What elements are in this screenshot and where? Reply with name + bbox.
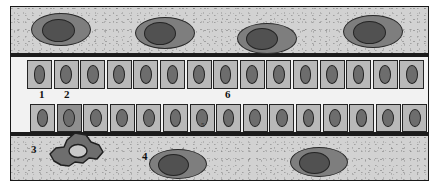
epithelial-cell xyxy=(402,104,427,132)
epithelial-cell xyxy=(323,104,348,132)
cell-nucleus xyxy=(113,65,125,84)
cell-nucleus xyxy=(329,109,341,127)
connective-oval-cell xyxy=(149,149,207,179)
cell-nucleus xyxy=(170,109,182,127)
cell-nucleus xyxy=(409,109,421,127)
callout-label-3: 3 xyxy=(31,144,37,155)
cell-nucleus xyxy=(353,21,386,44)
epithelial-cell xyxy=(187,60,212,89)
callout-label-4: 4 xyxy=(142,151,148,162)
epithelial-cell xyxy=(320,60,345,89)
callout-label-6: 6 xyxy=(225,89,231,100)
epithelial-cell xyxy=(136,104,161,132)
callout-label-5: 5 xyxy=(201,122,205,129)
cell-nucleus xyxy=(158,154,189,176)
epithelial-cell xyxy=(349,104,374,132)
cell-nucleus xyxy=(299,152,330,174)
cell-nucleus xyxy=(353,65,365,84)
callout-label-1: 1 xyxy=(39,89,45,100)
cell-nucleus xyxy=(116,109,128,127)
cell-nucleus xyxy=(63,109,75,127)
epithelial-cell xyxy=(399,60,424,89)
squamous-cell xyxy=(31,13,91,46)
cell-nucleus xyxy=(167,65,179,84)
cell-nucleus xyxy=(273,65,285,84)
irregular-amoeboid-cell xyxy=(39,132,111,170)
epithelial-cell xyxy=(216,104,241,132)
cell-nucleus xyxy=(406,65,418,84)
cell-nucleus xyxy=(90,109,102,127)
cell-nucleus xyxy=(382,109,394,127)
epithelial-cell xyxy=(83,104,108,132)
figure-frame: 1 2 3 4 5 6 xyxy=(10,6,429,181)
cell-nucleus xyxy=(356,109,368,127)
epithelial-cell xyxy=(293,60,318,89)
upper-epithelium-row xyxy=(11,60,429,89)
epithelial-cell xyxy=(346,60,371,89)
cell-nucleus xyxy=(223,109,235,127)
cell-nucleus xyxy=(379,65,391,84)
cell-nucleus xyxy=(276,109,288,127)
connective-oval-cell xyxy=(290,147,348,177)
cell-nucleus xyxy=(34,65,46,84)
cell-nucleus xyxy=(140,65,152,84)
epithelial-cell xyxy=(296,104,321,132)
epithelial-cell xyxy=(160,60,185,89)
cell-nucleus xyxy=(37,109,49,127)
squamous-cell xyxy=(237,23,297,54)
squamous-cell xyxy=(135,17,195,49)
epithelial-cell xyxy=(376,104,401,132)
cell-nucleus xyxy=(220,65,232,84)
epithelial-cell xyxy=(27,60,52,89)
cell-nucleus xyxy=(246,65,258,84)
epithelial-cell xyxy=(269,104,294,132)
epithelial-cell xyxy=(54,60,79,89)
callout-label-2: 2 xyxy=(64,89,70,100)
amoeboid-cell-shape xyxy=(39,132,111,170)
epithelial-cell xyxy=(30,104,55,132)
epithelial-cell-highlighted xyxy=(57,104,82,132)
epithelial-cell xyxy=(213,60,238,89)
epithelial-cell xyxy=(266,60,291,89)
epithelial-cell xyxy=(243,104,268,132)
epithelial-cell xyxy=(373,60,398,89)
cell-nucleus xyxy=(303,109,315,127)
cell-nucleus xyxy=(300,65,312,84)
cell-nucleus xyxy=(326,65,338,84)
cell-nucleus xyxy=(249,109,261,127)
lower-epithelium-row xyxy=(11,104,429,132)
cell-nucleus xyxy=(60,65,72,84)
epithelial-cell xyxy=(133,60,158,89)
cell-nucleus xyxy=(87,65,99,84)
cell-nucleus xyxy=(193,65,205,84)
epithelial-cell xyxy=(107,60,132,89)
squamous-cell xyxy=(343,15,403,48)
histology-figure: 1 2 3 4 5 6 xyxy=(0,0,439,191)
cell-nucleus xyxy=(143,109,155,127)
cell-nucleus xyxy=(246,28,278,50)
epithelial-cell xyxy=(240,60,265,89)
epithelial-cell xyxy=(110,104,135,132)
cell-nucleus xyxy=(144,22,176,45)
cell-nucleus xyxy=(42,19,75,42)
epithelial-cell xyxy=(163,104,188,132)
epithelial-cell xyxy=(80,60,105,89)
